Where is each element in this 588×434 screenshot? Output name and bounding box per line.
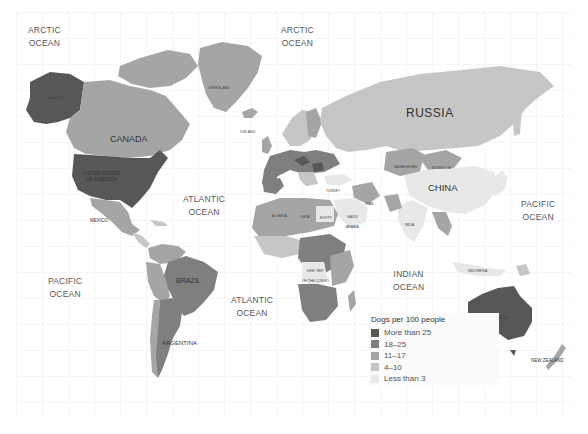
legend-item-18-25: 18–25 <box>371 339 499 351</box>
legend-label: 11–17 <box>384 351 406 360</box>
legend-label: More than 25 <box>384 328 431 337</box>
label-canada: CANADA <box>110 134 148 144</box>
label-libya: LIBYA <box>300 212 310 222</box>
label-atlantic-ocean-north: ATLANTIC OCEAN <box>183 193 225 219</box>
label-turkey: TURKEY <box>326 186 340 196</box>
label-drc: DEM. REP. OF THE CONGO <box>302 266 329 286</box>
legend: Dogs per 100 people More than 25 18–25 1… <box>369 313 499 385</box>
label-indonesia: INDONESIA <box>468 266 487 276</box>
label-india: INDIA <box>405 220 414 230</box>
label-saudi-arabia: SAUDI ARABIA <box>346 212 359 232</box>
label-algeria: ALGERIA <box>272 211 287 221</box>
world-map <box>0 0 588 434</box>
label-greenland: GREENLAND <box>208 83 230 93</box>
label-alaska: ALASKA <box>49 93 63 103</box>
legend-item-4-10: 4–10 <box>371 362 499 374</box>
legend-label: Less than 3 <box>384 374 425 383</box>
label-atlantic-ocean-south: ATLANTIC OCEAN <box>231 294 273 320</box>
label-pacific-ocean-left: PACIFIC OCEAN <box>48 275 82 301</box>
legend-swatch <box>371 375 379 383</box>
legend-label: 4–10 <box>384 363 402 372</box>
label-argentina: ARGENTINA <box>162 338 197 348</box>
legend-swatch <box>371 340 379 348</box>
label-mongolia: MONGOLIA <box>432 163 451 173</box>
label-china: CHINA <box>428 183 458 193</box>
legend-item-11-17: 11–17 <box>371 350 499 362</box>
label-indian-ocean: INDIAN OCEAN <box>393 268 424 294</box>
label-russia: RUSSIA <box>406 108 454 118</box>
legend-label: 18–25 <box>384 340 406 349</box>
legend-swatch <box>371 329 379 337</box>
label-brazil: BRAZIL <box>176 276 201 286</box>
label-iceland: ICELAND <box>240 127 255 137</box>
label-arctic-ocean-right: ARCTIC OCEAN <box>281 24 314 50</box>
label-kazakhstan: KAZAKHSTAN <box>394 162 417 172</box>
label-mexico: MEXICO <box>90 216 108 226</box>
legend-item-more-than-25: More than 25 <box>371 327 499 339</box>
legend-item-less-than-3: Less than 3 <box>371 373 499 385</box>
label-iran: IRAN <box>365 199 373 209</box>
label-egypt: EGYPT <box>320 213 332 223</box>
legend-swatch <box>371 363 379 371</box>
label-pacific-ocean-right: PACIFIC OCEAN <box>521 198 555 224</box>
label-new-zealand: NEW ZEALAND <box>531 356 564 366</box>
legend-title: Dogs per 100 people <box>371 315 499 324</box>
label-usa: UNITED STATES OF AMERICA <box>82 170 121 182</box>
legend-swatch <box>371 352 379 360</box>
label-arctic-ocean-left: ARCTIC OCEAN <box>28 24 61 50</box>
